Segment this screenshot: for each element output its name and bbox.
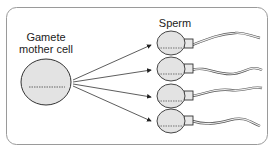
diagram-canvas — [0, 0, 274, 150]
sperm-label: Sperm — [153, 17, 197, 29]
mother-cell — [21, 59, 71, 105]
mother-label-line1: Gamete — [10, 31, 82, 43]
mother-cell-label: Gamete mother cell — [10, 31, 82, 55]
mother-label-line2: mother cell — [10, 43, 82, 55]
